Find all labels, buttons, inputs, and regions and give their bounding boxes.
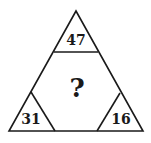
triangle-puzzle: 47 ? 31 16 [0,0,151,143]
triangle-diagram: 47 ? 31 16 [0,0,151,143]
center-question-mark: ? [69,73,84,103]
bottom-left-number: 31 [21,111,40,127]
top-number: 47 [66,32,85,48]
bottom-right-number: 16 [111,111,130,127]
